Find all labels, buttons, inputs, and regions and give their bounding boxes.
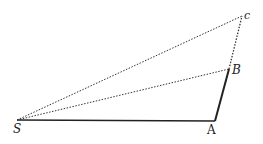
segment-s-b [17, 69, 229, 120]
label-point-c: c [244, 10, 250, 21]
label-point-s: S [13, 123, 21, 135]
label-point-b: B [232, 64, 241, 76]
segment-b-c [229, 16, 242, 69]
segment-s-c [17, 16, 242, 120]
segment-a-b [215, 69, 229, 121]
triangle-diagram [0, 0, 263, 144]
segment-s-a [17, 120, 215, 121]
label-point-a: A [207, 124, 216, 136]
